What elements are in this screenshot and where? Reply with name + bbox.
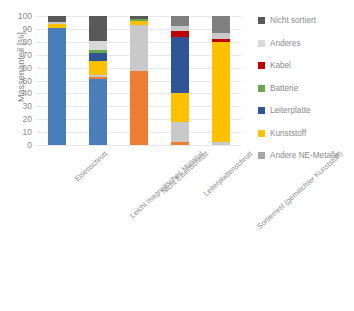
y-tick-label: 10 [23,128,32,137]
legend-swatch-icon [258,17,265,24]
legend-label: Kabel [270,61,291,71]
legend-swatch-icon [258,62,265,69]
bar-segment[interactable] [212,42,230,143]
legend-swatch-icon [258,40,265,47]
bar-segment[interactable] [171,93,189,121]
legend-label: Batterie [270,84,298,94]
bar-stack[interactable] [130,16,148,145]
bar-segment[interactable] [212,33,230,39]
bar-segment[interactable] [171,26,189,31]
legend-label: Anderes [270,39,301,49]
legend-item[interactable]: Nicht sortiert [258,16,354,26]
y-tick-label: 30 [23,102,32,111]
legend-swatch-icon [258,130,265,137]
x-tick-label: Eisenschrott [73,150,108,183]
bar-segment[interactable] [89,41,107,50]
bar-segment[interactable] [89,79,107,145]
y-tick-label: 90 [23,25,32,34]
plot-area: 0102030405060708090100 [36,16,241,145]
legend-item[interactable]: Kunststoff [258,129,354,139]
legend-label: Kunststoff [270,129,306,139]
bar [130,16,148,145]
bar [48,16,66,145]
bar-segment[interactable] [130,16,148,19]
bar-segment[interactable] [171,142,189,145]
bar-stack[interactable] [171,16,189,145]
bar-segment[interactable] [89,61,107,75]
chart-legend: Nicht sortiertAnderesKabelBatterieLeiter… [258,16,354,174]
legend-swatch-icon [258,152,265,159]
bar-segment[interactable] [48,28,66,145]
y-tick-label: 80 [23,38,32,47]
bar [212,16,230,145]
bar [89,16,107,145]
bar-segment[interactable] [130,19,148,22]
bar-segment[interactable] [171,31,189,36]
gridline [36,145,241,146]
bar-segment[interactable] [48,16,66,22]
y-tick-label: 20 [23,115,32,124]
bar-stack[interactable] [89,16,107,145]
legend-item[interactable]: Anderes [258,39,354,49]
y-tick-label: 50 [23,76,32,85]
legend-swatch-icon [258,85,265,92]
bar-segment[interactable] [130,21,148,25]
y-tick-label: 100 [18,12,32,21]
bar-stack[interactable] [48,16,66,145]
x-tick-label: Leiterplattenschrott [202,150,254,198]
legend-label: Leiterplatte [270,106,311,116]
stacked-bar-chart: Massenanteil [%] 0102030405060708090100 … [0,0,354,311]
legend-item[interactable]: Leiterplatte [258,106,354,116]
bar-segment[interactable] [171,122,189,142]
bar-segment[interactable] [171,16,189,26]
bar-segment[interactable] [89,77,107,80]
bar-segment[interactable] [89,53,107,61]
x-tick-label: Nicht Eisenschrott [160,150,209,195]
bar [171,16,189,145]
legend-item[interactable]: Batterie [258,84,354,94]
bar-segment[interactable] [48,22,66,24]
y-tick-label: 60 [23,63,32,72]
bar-segment[interactable] [89,50,107,54]
bar-stack[interactable] [212,16,230,145]
bar-segment[interactable] [130,71,148,145]
bar-segment[interactable] [89,75,107,76]
y-tick-label: 0 [27,141,32,150]
bar-segment[interactable] [130,25,148,71]
legend-item[interactable]: Andere NE-Metalle [258,151,354,161]
y-tick-label: 40 [23,89,32,98]
legend-item[interactable]: Kabel [258,61,354,71]
legend-label: Andere NE-Metalle [270,151,339,161]
bar-segment[interactable] [171,37,189,94]
bar-segment[interactable] [212,142,230,145]
legend-swatch-icon [258,107,265,114]
legend-label: Nicht sortiert [270,16,316,26]
bar-segment[interactable] [212,39,230,42]
bar-segment[interactable] [89,16,107,41]
bar-segment[interactable] [212,16,230,33]
y-tick-label: 70 [23,50,32,59]
bar-segment[interactable] [48,24,66,27]
